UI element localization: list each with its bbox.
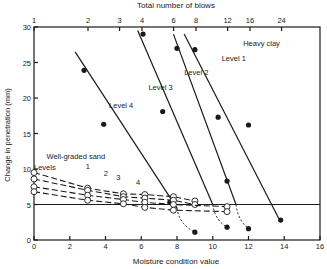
y-tick-label: 5 xyxy=(27,201,31,210)
annotations: Heavy clayLevel 1Level 2Level 3Level 4We… xyxy=(34,39,280,187)
top-tick-label: 12 xyxy=(223,16,231,25)
series-well-graded-sand-level-3 xyxy=(31,184,230,210)
y-tick-label: 15 xyxy=(23,130,31,139)
y-tick-label: 20 xyxy=(23,94,31,103)
y-tick-label: 10 xyxy=(23,165,31,174)
x-tick-label: 10 xyxy=(209,242,217,251)
open-marker xyxy=(142,204,148,210)
y-tick-label: 30 xyxy=(23,23,31,32)
open-marker xyxy=(170,207,176,213)
x-axis-label: Moisture condition value xyxy=(133,257,220,266)
filled-marker xyxy=(246,226,251,231)
series-well-graded-sand-level-4 xyxy=(31,189,230,215)
top-tick-label: 2 xyxy=(86,16,90,25)
top-tick-label: 8 xyxy=(194,16,198,25)
open-marker xyxy=(170,202,176,208)
filled-marker xyxy=(81,68,86,73)
annotation-level-2: Level 2 xyxy=(184,68,208,77)
x-tick-label: 14 xyxy=(280,242,288,251)
annotation-levels: Levels xyxy=(34,163,56,172)
annotation-2: 2 xyxy=(104,169,108,178)
x-tick-label: 2 xyxy=(68,242,72,251)
open-marker xyxy=(120,201,126,207)
annotation-level-1: Level 1 xyxy=(222,54,246,63)
annotation-heavy-clay: Heavy clay xyxy=(243,39,280,48)
top-tick-label: 6 xyxy=(172,16,176,25)
open-marker xyxy=(85,197,91,203)
annotation-1: 1 xyxy=(86,162,90,171)
annotation-3: 3 xyxy=(116,173,120,182)
filled-marker xyxy=(192,230,197,235)
x-tick-label: 8 xyxy=(175,242,179,251)
filled-marker xyxy=(246,122,251,127)
filled-marker xyxy=(278,218,283,223)
penetration-vs-mcv-chart: 0246810121416051015202530123468121624 He… xyxy=(0,0,327,269)
annotation-level-3: Level 3 xyxy=(148,83,172,92)
filled-marker xyxy=(140,31,145,36)
x-tick-label: 12 xyxy=(244,242,252,251)
top-tick-label: 4 xyxy=(140,16,144,25)
open-marker xyxy=(192,202,198,208)
top-tick-label: 3 xyxy=(118,16,122,25)
filled-marker xyxy=(216,115,221,120)
annotation-4: 4 xyxy=(136,178,140,187)
open-marker xyxy=(31,189,37,195)
filled-marker xyxy=(160,109,165,114)
filled-marker xyxy=(174,46,179,51)
x-tick-label: 16 xyxy=(316,242,324,251)
filled-marker xyxy=(192,47,197,52)
clay-trend-line xyxy=(138,31,213,205)
y-axis-label: Change in penetration (mm) xyxy=(3,88,12,182)
annotation-well-graded-sand: Well-graded sand xyxy=(47,152,106,161)
top-axis-label: Total number of blows xyxy=(137,1,215,10)
top-tick-label: 24 xyxy=(277,16,285,25)
annotation-level-4: Level 4 xyxy=(109,101,133,110)
y-tick-label: 25 xyxy=(23,59,31,68)
x-tick-label: 4 xyxy=(103,242,107,251)
top-tick-label: 1 xyxy=(32,16,36,25)
open-marker xyxy=(31,176,37,182)
open-marker xyxy=(224,209,230,215)
clay-tail-curve xyxy=(177,208,195,232)
filled-marker xyxy=(224,225,229,230)
clay-trend-line xyxy=(75,52,177,208)
filled-marker xyxy=(224,178,229,183)
clay-tail-curve xyxy=(236,205,249,229)
chart-canvas: 0246810121416051015202530123468121624 He… xyxy=(0,0,327,269)
top-tick-label: 16 xyxy=(246,16,254,25)
axes: 0246810121416051015202530123468121624 xyxy=(23,16,325,251)
y-tick-label: 0 xyxy=(27,236,31,245)
series-heavy-clay-level-2 xyxy=(173,34,251,231)
x-tick-label: 0 xyxy=(32,242,36,251)
filled-marker xyxy=(101,122,106,127)
series-heavy-clay-level-4 xyxy=(75,52,197,235)
x-tick-label: 6 xyxy=(139,242,143,251)
